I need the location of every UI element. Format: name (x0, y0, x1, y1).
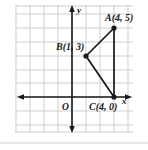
vertex-label-c: C(4, 0) (89, 101, 117, 113)
x-axis-label: x (121, 96, 127, 106)
coordinate-plane-figure: A(4, 5) B(1, 3) C(4, 0) y x O (0, 0, 148, 150)
coordinate-plane-svg: A(4, 5) B(1, 3) C(4, 0) y x O (0, 0, 148, 150)
vertex-point-a (111, 25, 116, 30)
vertex-label-a: A(4, 5) (104, 12, 133, 24)
origin-label: O (62, 102, 69, 112)
vertex-label-b: B(1, 3) (55, 41, 84, 53)
plot-background (15, 5, 133, 133)
vertex-point-b (83, 53, 88, 58)
vertex-point-c (111, 94, 116, 99)
